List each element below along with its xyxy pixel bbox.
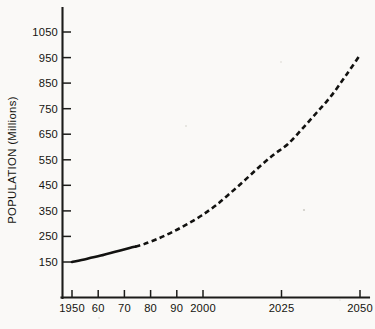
x-tick-label: 90 [170, 302, 183, 314]
population-line-historical [72, 247, 135, 262]
chart-canvas: 150 250 350 450 550 650 750 850 950 1050… [0, 0, 375, 329]
x-tick-label: 80 [144, 302, 157, 314]
y-tick-marks [63, 32, 71, 262]
x-tick-label: 1950 [59, 302, 85, 314]
population-chart: 150 250 350 450 550 650 750 850 950 1050… [0, 0, 375, 329]
y-tick-label: 1050 [32, 26, 58, 38]
x-tick-labels: 1950 60 70 80 90 2000 2025 2050 [59, 302, 373, 314]
y-tick-label: 950 [39, 52, 58, 64]
y-tick-label: 450 [39, 179, 58, 191]
x-tick-label: 60 [92, 302, 105, 314]
x-tick-label: 70 [118, 302, 131, 314]
y-tick-label: 550 [39, 154, 58, 166]
y-tick-labels: 150 250 350 450 550 650 750 850 950 1050 [32, 26, 58, 268]
y-tick-label: 250 [39, 230, 58, 242]
y-tick-label: 850 [39, 77, 58, 89]
y-tick-label: 650 [39, 128, 58, 140]
population-line-projected [135, 55, 360, 247]
y-tick-label: 750 [39, 103, 58, 115]
scan-speckles [98, 61, 340, 318]
x-tick-marks [72, 290, 360, 297]
x-tick-label: 2025 [269, 302, 295, 314]
y-tick-label: 150 [39, 256, 58, 268]
x-tick-label: 2000 [190, 302, 216, 314]
x-tick-label: 2050 [347, 302, 373, 314]
y-tick-label: 350 [39, 205, 58, 217]
y-axis-title: POPULATION (Millions) [6, 96, 18, 224]
